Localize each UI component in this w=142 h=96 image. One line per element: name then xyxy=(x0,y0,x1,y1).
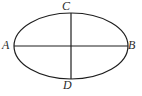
vertex-label-right: B xyxy=(128,39,135,51)
ellipse-diagram: C A B D xyxy=(0,0,142,96)
vertex-label-top: C xyxy=(62,0,70,12)
vertex-label-bottom: D xyxy=(63,79,72,91)
vertex-label-left: A xyxy=(2,39,9,51)
